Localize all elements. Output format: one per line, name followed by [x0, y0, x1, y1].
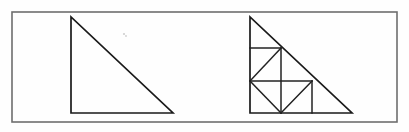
plain-triangle: [71, 17, 173, 113]
lower-left-diagonal-line: [250, 81, 281, 113]
speck-right-icon: [125, 35, 127, 37]
figure-canvas: [0, 0, 409, 132]
lower-right-diagonal-line: [281, 81, 312, 113]
outer-border: [12, 12, 397, 122]
scan-specks: [123, 33, 127, 37]
dissection-lines: [250, 48, 312, 113]
upper-square-diagonal-line: [250, 48, 281, 81]
speck-left-icon: [123, 33, 125, 35]
geometry-figure: [0, 0, 409, 132]
